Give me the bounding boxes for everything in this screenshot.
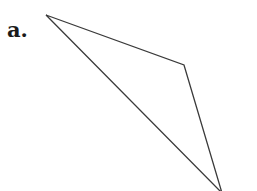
triangle-shape [46, 15, 222, 191]
diagram-canvas: a. [0, 0, 257, 191]
triangle-figure [0, 0, 257, 191]
